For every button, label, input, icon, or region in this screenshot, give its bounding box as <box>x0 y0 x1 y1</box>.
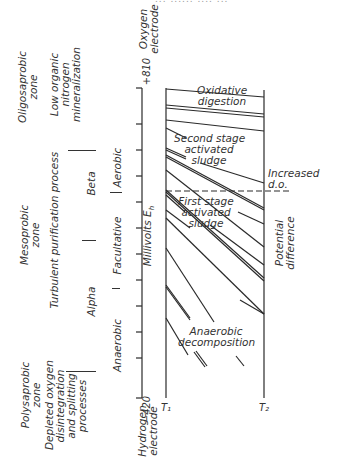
axis-top-value: +810 <box>141 57 152 87</box>
t1-label: T₁ <box>159 402 173 413</box>
increased-do-label: Increased d.o. <box>268 168 318 190</box>
mesoprobic-process-label: Turbulent purification process <box>49 153 60 309</box>
second-stage-label: Second stage activated sludge <box>174 133 244 166</box>
first-stage-label: First stage activated sludge <box>176 196 236 229</box>
aerobic-divider <box>110 192 122 193</box>
polysaprobic-zone-label: Polysaprobic zone <box>20 360 42 430</box>
axis-title: Millivolts Eh <box>142 201 158 271</box>
oxidative-digestion-label: Oxidative digestion <box>192 85 252 107</box>
facultative-label: Facultative <box>112 211 123 281</box>
potential-difference-label: Potential difference <box>274 210 296 276</box>
polysaprobic-desc: Depleted oxygen disintegration and split… <box>44 362 88 450</box>
anaerobic-decomposition-label: Anaerobic decomposition <box>178 326 254 348</box>
oxygen-electrode-label: Oxygen electrode <box>138 2 160 56</box>
alpha-label: Alpha <box>86 283 97 321</box>
oligosaprobic-zone-label: Oligosaprobic zone <box>17 47 39 127</box>
beta-alpha-divider <box>82 240 96 241</box>
anaerobic-label: Anaerobic <box>112 315 123 377</box>
facultative-divider <box>112 288 120 289</box>
turbulent-top-divider <box>68 150 96 151</box>
mesoprobic-zone-label: Mesoprobic zone <box>19 205 41 265</box>
oligosaprobic-desc: Low organic nitrogen mineralization <box>49 42 82 128</box>
beta-label: Beta <box>86 169 97 199</box>
t2-label: T₂ <box>257 402 271 413</box>
hydrogen-electrode-label: Hydrogen electrode <box>137 399 159 458</box>
aerobic-label: Aerobic <box>112 143 123 193</box>
